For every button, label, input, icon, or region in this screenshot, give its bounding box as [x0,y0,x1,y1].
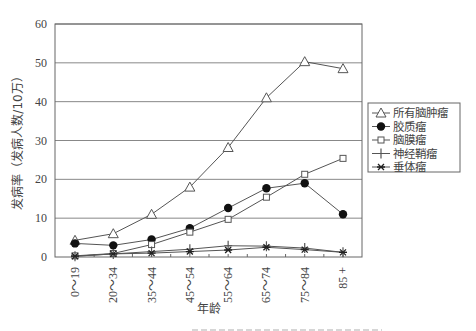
y-tick-label: 40 [35,95,47,109]
line-chart: 发病率（发病人数/10万） 0102030405060 0～1920～3435～… [0,0,476,331]
y-tick-label: 30 [35,134,47,148]
x-tick-label: 85 + [336,267,350,289]
x-tick-label: 35～44 [145,267,159,303]
triangle-marker-icon [300,57,310,66]
legend-label: 胶质瘤 [393,120,427,134]
legend: 所有脑肿瘤胶质瘤脑膜瘤神经鞘瘤垂体瘤 [368,103,460,174]
x-tick-label: 65～74 [259,267,273,303]
x-tick-label: 75～84 [298,267,312,303]
y-tick-label: 0 [41,250,47,264]
legend-label: 所有脑肿瘤 [393,106,449,120]
square-marker-icon [302,171,308,177]
legend-label: 神经鞘瘤 [393,147,438,161]
y-tick-label: 50 [35,56,47,70]
square-marker-icon [340,155,346,161]
legend-label: 垂体瘤 [393,160,427,174]
x-tick-label: 20～34 [106,267,120,303]
circle-marker-icon [262,184,270,192]
square-marker-icon [263,194,269,200]
x-tick-label: 55～64 [221,267,235,303]
circle-marker-icon [224,204,232,212]
x-tick-label: 0～19 [68,267,82,297]
circle-marker-icon [339,210,347,218]
gridlines [55,24,362,218]
y-axis-label: 发病率（发病人数/10万） [10,70,25,209]
legend-label: 脑膜瘤 [393,133,427,147]
triangle-marker-icon [108,229,118,238]
figure-caption-cropped [192,326,382,331]
y-tick-label: 20 [35,172,47,186]
series-group [70,57,348,262]
y-axis-title: 发病率（发病人数/10万） [10,70,25,209]
y-tick-label: 10 [35,211,47,225]
x-axis-label: 年龄 [197,302,221,316]
triangle-marker-icon [223,142,233,151]
square-marker-icon [187,229,193,235]
series-circle-filled [71,179,347,250]
circle-marker-icon [301,179,309,187]
circle-marker-icon [377,122,385,130]
y-tick-label: 60 [35,17,47,31]
series-triangle-open [70,57,348,245]
circle-marker-icon [109,241,117,249]
circle-marker-icon [71,239,79,247]
series-line [75,62,343,241]
x-tick-label: 45～54 [183,267,197,303]
triangle-marker-icon [147,209,157,218]
y-axis-ticks: 0102030405060 [35,17,47,264]
square-marker-icon [378,137,384,143]
x-axis-ticks: 0～1920～3435～4445～5455～6465～7475～8485 + [68,254,350,303]
square-marker-icon [225,216,231,222]
